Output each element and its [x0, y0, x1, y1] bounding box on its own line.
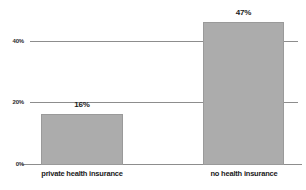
tick-mark-40	[30, 41, 36, 42]
bar-value-label-no-insurance: 47%	[203, 9, 284, 17]
bar-private-health-insurance	[41, 114, 123, 165]
bar-no-health-insurance	[203, 22, 284, 165]
bar-value-label-private: 16%	[41, 101, 123, 109]
category-label-private: private health insurance	[22, 170, 142, 178]
y-axis-label-40: 40%	[2, 38, 24, 44]
plot-area: 40% 20% 0% 16% 47% private health insura…	[0, 0, 306, 190]
tick-mark-20	[30, 102, 36, 103]
y-axis-label-20: 20%	[2, 99, 24, 105]
tick-mark-40-right	[286, 41, 298, 42]
category-label-no-insurance: no health insurance	[184, 170, 304, 178]
tick-mark-20-right	[286, 102, 298, 103]
bar-chart: 40% 20% 0% 16% 47% private health insura…	[0, 0, 306, 190]
y-axis-label-0: 0%	[2, 161, 24, 167]
tick-mark-0	[28, 164, 36, 165]
